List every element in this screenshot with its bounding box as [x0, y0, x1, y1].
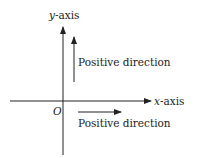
y-axis-suffix: -axis: [55, 9, 79, 21]
y-axis-label: y-axis: [49, 10, 79, 21]
x-axis-label: x-axis: [154, 96, 184, 107]
up-direction-label: Positive direction: [78, 57, 171, 68]
origin-label: O: [53, 106, 62, 117]
coordinate-diagram: [0, 0, 200, 158]
x-axis-suffix: -axis: [160, 95, 184, 107]
right-direction-label: Positive direction: [78, 118, 171, 129]
